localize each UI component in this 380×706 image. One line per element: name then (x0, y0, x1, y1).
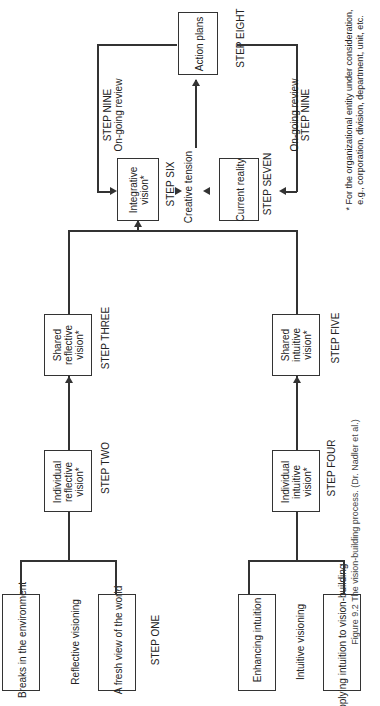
label: Individual intuitive vision* (272, 451, 320, 513)
ongoing-review: On-going review (113, 79, 124, 152)
review-label-bottom: On-going review STEP NINE (285, 60, 315, 170)
step-label: STEP ONE (147, 600, 163, 680)
label: Action plans (178, 13, 220, 76)
step-label: STEP SIX (162, 154, 178, 214)
step-label: STEP EIGHT (232, 0, 248, 78)
label: Enhancing intuition (238, 592, 276, 689)
step-label: STEP FIVE (327, 293, 343, 383)
diagram-layer: .rt{transform:rotate(-90deg);transform-o… (0, 0, 380, 706)
step-label: STEP FOUR (323, 433, 339, 503)
label: Shared reflective vision* (44, 314, 92, 376)
review-label-top: STEP NINE On-going review (98, 60, 128, 170)
process-label: Intuitive visioning (289, 592, 311, 692)
label: Breaks in the environment (3, 592, 41, 689)
label: Current reality (219, 159, 261, 222)
ongoing-review: On-going review (289, 79, 300, 152)
footnote: * For the organizational entity under co… (340, 10, 370, 210)
step-label: STEP SEVEN (259, 149, 275, 219)
step-nine: STEP NINE (300, 89, 311, 142)
label: A fresh view of the world (99, 592, 137, 689)
step-label: STEP TWO (97, 433, 113, 503)
figure-caption: Figure 9.2 The vision-building process. … (348, 372, 362, 692)
footnote-line: * For the organizational entity under co… (344, 9, 355, 210)
process-label: Reflective visioning (64, 592, 86, 692)
label: Shared intuitive vision* (272, 314, 320, 376)
footnote-line: e.g., corporation, division, department,… (355, 15, 366, 205)
step-label: STEP THREE (97, 293, 113, 383)
step-nine: STEP NINE (102, 89, 113, 142)
creative-tension-label: Creative tension (181, 147, 195, 227)
label: Individual reflective vision* (44, 451, 92, 513)
